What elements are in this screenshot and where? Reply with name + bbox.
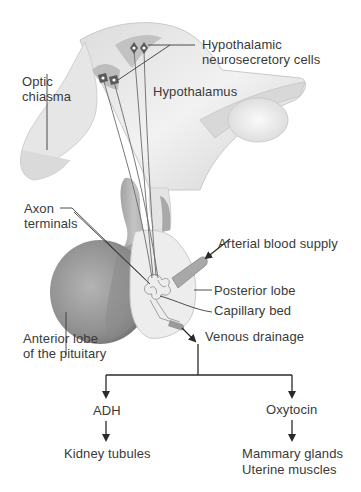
target-mammary-glands: Mammary glands	[242, 446, 343, 461]
label-axon-terminals-1: Axon	[24, 201, 54, 216]
posterior-lobe	[130, 230, 196, 338]
hormone-oxytocin: Oxytocin	[266, 402, 317, 417]
target-kidney-tubules: Kidney tubules	[64, 446, 151, 461]
label-axon-terminals-2: terminals	[24, 216, 78, 231]
label-anterior-lobe-1: Anterior lobe	[23, 331, 98, 346]
target-uterine-muscles: Uterine muscles	[242, 462, 337, 477]
label-hypothalamic-cells-2: neurosecretory cells	[202, 52, 320, 67]
label-hypothalamus: Hypothalamus	[153, 84, 237, 99]
label-arterial-supply: Arterial blood supply	[218, 236, 338, 251]
label-anterior-lobe-2: of the pituitary	[23, 346, 106, 361]
label-optic-chiasma-2: chiasma	[22, 89, 71, 104]
hormone-adh: ADH	[93, 403, 121, 418]
label-hypothalamic-cells-1: Hypothalamic	[202, 37, 282, 52]
label-posterior-lobe: Posterior lobe	[214, 283, 296, 298]
label-venous-drainage: Venous drainage	[205, 329, 304, 344]
label-optic-chiasma-1: Optic	[22, 74, 53, 89]
label-capillary-bed: Capillary bed	[214, 303, 291, 318]
hormone-flow-lines	[106, 344, 292, 440]
